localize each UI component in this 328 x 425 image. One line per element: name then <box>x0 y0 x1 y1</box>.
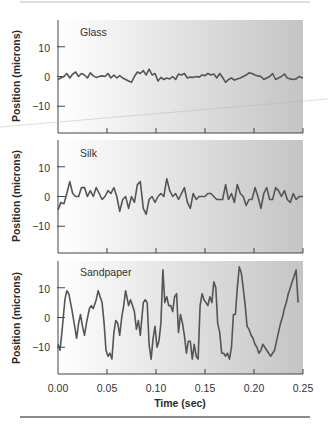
y-tick-label: 0 <box>44 191 50 203</box>
y-tick-labels: 10 0 −10 <box>32 42 50 112</box>
x-tick-label: 0.20 <box>244 382 265 394</box>
panel-title: Sandpaper <box>80 266 132 278</box>
panel-title: Glass <box>80 26 107 38</box>
y-tick-labels: 10 0 −10 <box>32 162 50 232</box>
x-axis-label: Time (sec) <box>154 397 206 409</box>
y-tick-label: −10 <box>32 341 50 353</box>
y-axis-label: Position (microns) <box>10 150 22 242</box>
panel-glass: Glass 10 0 −10 Position (microns) <box>10 20 303 133</box>
y-tick-label: −10 <box>32 220 50 232</box>
y-tick-label: 0 <box>44 71 50 83</box>
x-tick-label: 0.00 <box>48 382 69 394</box>
x-tick-label: 0.10 <box>146 382 167 394</box>
panel-title: Silk <box>80 147 98 159</box>
chart-canvas: Glass 10 0 −10 Position (microns) Silk 1… <box>0 0 328 425</box>
x-tick-label: 0.25 <box>293 382 314 394</box>
x-tick-label: 0.15 <box>195 382 216 394</box>
panel-sandpaper: Sandpaper 10 0 −10 Position (microns) 0.… <box>10 261 313 409</box>
y-tick-label: 10 <box>38 283 50 295</box>
y-tick-label: −10 <box>32 100 50 112</box>
y-tick-labels: 10 0 −10 <box>32 283 50 353</box>
x-tick-labels: 0.00 0.05 0.10 0.15 0.20 0.25 <box>48 382 314 394</box>
x-tick-label: 0.05 <box>97 382 118 394</box>
y-tick-label: 0 <box>44 312 50 324</box>
figure: Glass 10 0 −10 Position (microns) Silk 1… <box>0 0 328 425</box>
panel-silk: Silk 10 0 −10 Position (microns) <box>10 140 303 253</box>
y-tick-label: 10 <box>38 42 50 54</box>
y-tick-label: 10 <box>38 162 50 174</box>
y-axis-label: Position (microns) <box>10 272 22 364</box>
y-axis-label: Position (microns) <box>10 30 22 122</box>
